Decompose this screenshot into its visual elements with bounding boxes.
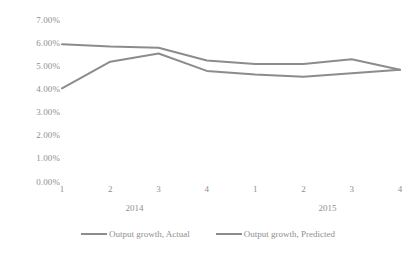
legend-item-actual[interactable]: Output growth, Actual [81, 229, 190, 239]
legend-item-predicted[interactable]: Output growth, Predicted [216, 229, 335, 239]
x-tick-label: 3 [144, 183, 174, 195]
x-group-label: 2015 [288, 202, 368, 214]
y-tick-label: 3.00% [12, 108, 60, 117]
legend-line-swatch [216, 233, 242, 235]
y-tick-label: 4.00% [12, 85, 60, 94]
chart-legend: Output growth, ActualOutput growth, Pred… [0, 226, 416, 242]
legend-label: Output growth, Predicted [244, 229, 335, 239]
y-tick-label: 7.00% [12, 16, 60, 25]
x-tick-label: 4 [385, 183, 415, 195]
x-tick-label: 2 [95, 183, 125, 195]
x-tick-label: 2 [288, 183, 318, 195]
y-tick-label: 1.00% [12, 154, 60, 163]
y-axis: 0.00%1.00%2.00%3.00%4.00%5.00%6.00%7.00% [12, 0, 60, 260]
legend-line-swatch [81, 233, 107, 235]
x-tick-label: 1 [240, 183, 270, 195]
x-tick-label: 1 [47, 183, 77, 195]
x-axis-group-row: 20142015 [62, 202, 400, 218]
line-chart: 0.00%1.00%2.00%3.00%4.00%5.00%6.00%7.00%… [0, 0, 416, 260]
x-tick-label: 4 [192, 183, 222, 195]
plot-svg [62, 20, 400, 182]
series-line-predicted [62, 44, 400, 69]
x-group-label: 2014 [94, 202, 174, 214]
x-tick-label: 3 [337, 183, 367, 195]
y-tick-label: 6.00% [12, 39, 60, 48]
y-tick-label: 2.00% [12, 131, 60, 140]
plot-area [62, 20, 400, 182]
legend-label: Output growth, Actual [109, 229, 190, 239]
y-tick-label: 5.00% [12, 62, 60, 71]
x-axis: 12341234 [62, 183, 400, 199]
